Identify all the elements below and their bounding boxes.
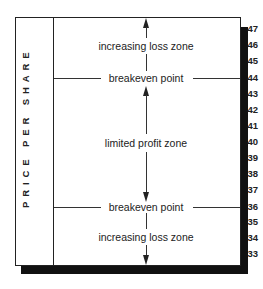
tick-43: 43 bbox=[228, 89, 258, 99]
tick-33: 33 bbox=[228, 249, 258, 259]
lower-breakeven-line-left bbox=[54, 207, 101, 208]
connector-line bbox=[146, 54, 147, 71]
connector-line bbox=[146, 27, 147, 38]
tick-34: 34 bbox=[228, 233, 258, 243]
upper-breakeven-line-left bbox=[54, 78, 101, 79]
axis-label: PRICE PER SHARE bbox=[20, 47, 31, 208]
lower-breakeven-line-right bbox=[193, 207, 240, 208]
tick-39: 39 bbox=[228, 153, 258, 163]
tick-46: 46 bbox=[228, 40, 258, 50]
lower-breakeven-label: breakeven point bbox=[109, 201, 184, 213]
tick-47: 47 bbox=[228, 24, 258, 34]
arrow-down-icon bbox=[143, 255, 149, 265]
connector-line bbox=[146, 95, 147, 134]
connector-line bbox=[146, 152, 147, 193]
tick-37: 37 bbox=[228, 185, 258, 195]
tick-40: 40 bbox=[228, 137, 258, 147]
profit-zone-label: limited profit zone bbox=[105, 137, 187, 149]
connector-line bbox=[146, 213, 147, 229]
tick-42: 42 bbox=[228, 105, 258, 115]
upper-loss-zone-label: increasing loss zone bbox=[98, 40, 193, 52]
box-shadow-bottom bbox=[21, 265, 248, 274]
tick-45: 45 bbox=[228, 56, 258, 66]
lower-loss-zone-label: increasing loss zone bbox=[98, 231, 193, 243]
upper-breakeven-line-right bbox=[193, 78, 240, 79]
tick-38: 38 bbox=[228, 169, 258, 179]
tick-35: 35 bbox=[228, 217, 258, 227]
tick-41: 41 bbox=[228, 121, 258, 131]
upper-breakeven-label: breakeven point bbox=[109, 72, 184, 84]
